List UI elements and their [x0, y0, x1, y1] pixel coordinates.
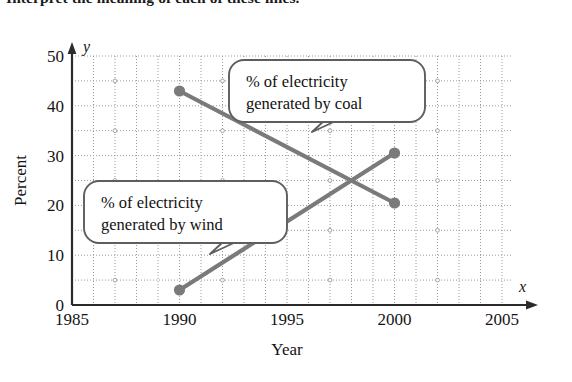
y-tick-label: 40	[47, 97, 64, 116]
x-axis-title: Year	[271, 340, 303, 359]
callout-wind: % of electricity generated by wind	[84, 181, 287, 254]
x-tick-label: 2005	[485, 310, 519, 329]
y-tick-label: 50	[47, 47, 64, 66]
y-axis-title: Percent	[11, 155, 30, 206]
x-tick-label: 1985	[55, 310, 89, 329]
y-tick-label: 30	[47, 147, 64, 166]
y-tick-label: 10	[47, 246, 64, 265]
coal-callout-line1: % of electricity	[246, 72, 348, 91]
line-chart: y x 50 40 30 20 10 0 1985 1990 1995 2000…	[0, 14, 572, 382]
coal-data-point	[389, 197, 400, 208]
coal-callout-line2: generated by coal	[246, 94, 363, 113]
coal-data-point	[174, 85, 185, 96]
x-axis-tick-labels: 1985 1990 1995 2000 2005	[55, 310, 519, 329]
y-tick-label: 20	[47, 196, 64, 215]
exercise-prompt: Interpret the meaning of each of these l…	[0, 0, 572, 11]
x-tick-label: 2000	[378, 310, 412, 329]
exercise-prompt-text: Interpret the meaning of each of these l…	[6, 0, 300, 7]
y-axis-variable-label: y	[81, 38, 91, 56]
chart-figure: y x 50 40 30 20 10 0 1985 1990 1995 2000…	[0, 14, 572, 382]
wind-callout-line2: generated by wind	[101, 215, 224, 234]
wind-data-point	[389, 147, 400, 158]
x-axis-variable-label: x	[518, 278, 526, 295]
x-tick-label: 1990	[163, 310, 197, 329]
wind-callout-line1: % of electricity	[101, 193, 203, 212]
y-axis-tick-labels: 50 40 30 20 10 0	[47, 47, 64, 315]
wind-data-point	[174, 284, 185, 295]
x-tick-label: 1995	[270, 310, 304, 329]
callout-coal: % of electricity generated by coal	[229, 60, 425, 132]
